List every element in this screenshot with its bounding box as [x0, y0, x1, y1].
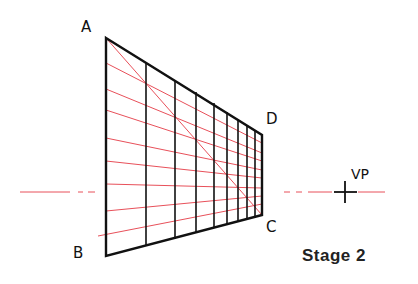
grid-verticals	[146, 63, 255, 246]
vanishing-point-label: VP	[351, 166, 369, 182]
stage-caption: Stage 2	[302, 246, 366, 266]
perspective-diagram	[0, 0, 418, 284]
vp-cross-icon	[334, 181, 357, 203]
corner-label-c: C	[266, 218, 276, 236]
corner-label-b: B	[73, 244, 83, 262]
corner-label-d: D	[266, 110, 278, 128]
corner-label-a: A	[81, 18, 91, 36]
